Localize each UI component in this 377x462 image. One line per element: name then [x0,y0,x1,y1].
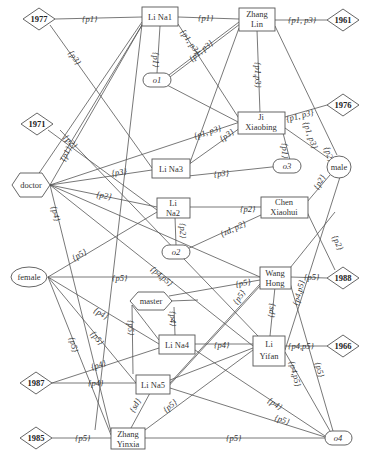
edge-label: {p4} [49,205,63,223]
person-node-li-na5[interactable]: Li Na5 [136,375,170,394]
node-label: 1985 [28,433,45,443]
knowledge-graph: {p1} {p1} {p1, p3} {p1} {p3} {p1, p3} {p… [0,0,377,462]
edge-label: {p4,p5} [290,278,307,306]
node-label: 1966 [335,341,352,351]
year-node-1971[interactable]: 1971 [21,113,53,135]
edge-label: {p1} [82,14,98,24]
person-node-wang-hong[interactable]: Wang Hong [260,267,291,289]
edge-label: {p2} [96,189,113,202]
edge-label: {p4,p5} [287,360,304,388]
edge-label: {p5} [226,433,242,443]
node-label: Xiaohui [270,207,298,217]
node-label: Wang [265,268,285,278]
object-node-o4[interactable]: o4 [325,431,352,445]
person-node-li-na1[interactable]: Li Na1 [142,7,178,26]
node-label: Zhang [246,9,268,19]
edge-label: {p1} [280,143,290,159]
node-label: o2 [172,247,181,257]
year-node-1966[interactable]: 1966 [327,335,359,357]
person-node-li-na4[interactable]: Li Na4 [159,335,195,354]
node-label: o4 [334,433,343,443]
person-node-li-na3[interactable]: Li Na3 [152,159,190,178]
person-node-zhang-lin[interactable]: Zhang Lin [239,8,275,31]
person-node-zhang-yinxia[interactable]: Zhang Yinxia [111,428,145,449]
node-label: Chen [275,197,294,207]
person-node-chen-xiaohui[interactable]: Chen Xiaohui [261,197,308,218]
node-label: Yinxia [117,439,140,449]
node-label: Li Na1 [148,12,172,22]
year-node-1988[interactable]: 1988 [327,267,359,289]
edge-label: {p5} [235,276,252,289]
edge-label: {p5} [230,287,247,306]
node-label: 1987 [28,378,46,388]
node-label: female [17,272,40,282]
edge-label: {p4} [266,395,285,412]
node-label: male [331,162,348,172]
edge-label: {p1, p3} [301,120,320,150]
year-node-1961[interactable]: 1961 [327,9,359,31]
person-node-ji-xiaobing[interactable]: Ji Xiaobing [238,112,285,134]
edge-label: {p4,p5} [149,264,176,289]
edge-label: {p5} [75,433,91,443]
edge-label: {p4,p5} [288,341,315,351]
node-label: 1961 [335,15,352,25]
edge-label: {p5} [112,273,128,283]
person-node-li-na2[interactable]: Li Na2 [157,198,190,218]
year-node-1987[interactable]: 1987 [20,372,52,394]
node-label: Hong [266,278,286,288]
edge-label: {p2} [240,204,256,214]
node-label: o3 [283,161,292,171]
edge-label: {p2} [330,234,346,253]
attribute-node-doctor[interactable]: doctor [12,173,50,197]
edge-label: {p4} [88,378,104,388]
edge-label: {sd} [267,303,278,319]
object-node-o1[interactable]: o1 [143,73,171,87]
node-label: Lin [251,19,264,29]
node-label: Li [169,198,177,208]
year-node-1977[interactable]: 1977 [23,8,55,30]
object-node-o2[interactable]: o2 [162,245,190,259]
object-node-o3[interactable]: o3 [273,159,301,173]
node-label: o1 [153,75,162,85]
attribute-node-female[interactable]: female [11,267,47,287]
edge-label: {p3} [111,166,128,178]
edge-label: {p1} [151,52,161,68]
edge-label: {p4} [168,311,178,327]
edge-label: {p1, p3} [288,15,317,25]
edge-label: {p3} [66,48,83,67]
node-label: 1976 [335,100,352,110]
edge-labels: {p1} {p1} {p1, p3} {p1} {p3} {p1, p3} {p… [49,13,346,443]
node-label: Zhang [117,429,139,439]
node-label: 1971 [29,119,46,129]
year-node-1976[interactable]: 1976 [327,94,359,116]
edge-label: {p5} [70,246,89,263]
node-label: Xiaobing [245,122,277,132]
node-label: Li Na5 [141,380,165,390]
node-label: Yifan [260,351,280,361]
edge-label: {p5} [67,336,81,354]
node-label: 1977 [31,14,49,24]
edge-label: {p5} [313,361,327,379]
node-label: Na2 [166,208,180,218]
edge-label: {p5} [126,320,136,336]
edge-label: {p4} [214,340,230,350]
node-label: Li Na4 [165,340,190,350]
edge-label: {zd, p2} [219,218,248,239]
node-label: Li Na3 [159,164,183,174]
year-node-1985[interactable]: 1985 [20,427,52,449]
edge-label: {p2} [311,172,328,191]
edge-label: {sd} [127,396,143,414]
edge-label: {p1,p3} [253,62,263,89]
edge-label: {p4} [90,357,108,371]
node-label: master [140,296,163,306]
node-label: Ji [258,112,264,122]
person-node-li-yifan[interactable]: Li Yifan [253,336,285,366]
edge-label: {p2} [178,223,188,239]
node-label: 1988 [335,273,352,283]
node-label: doctor [20,180,42,190]
edge-label: {p5} [304,272,320,282]
edge-label: {p5} [273,412,291,426]
node-label: Li [265,339,273,349]
attribute-node-master[interactable]: master [130,292,172,310]
attribute-node-male[interactable]: male [327,156,351,178]
